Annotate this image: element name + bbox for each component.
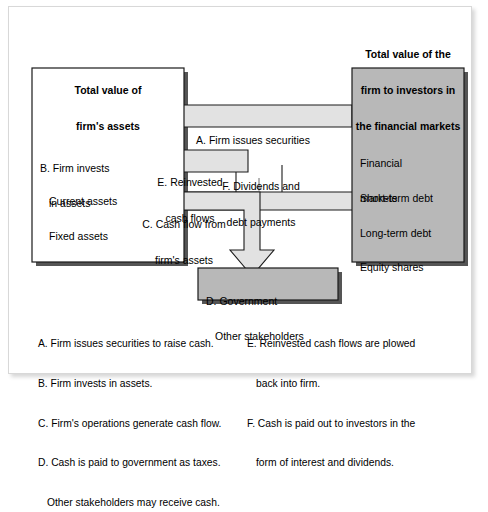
legend-right-line-0: E. Reinvested cash flows are plowed	[247, 337, 463, 350]
legend-right-column: E. Reinvested cash flows are plowed back…	[247, 311, 463, 496]
markets-line-4: Long-term debt	[360, 228, 470, 240]
markets-line-3: Short-term debt	[360, 193, 470, 205]
markets-line-5: Equity shares	[360, 262, 470, 274]
arrow-f-text-l2: debt payments	[200, 216, 322, 228]
markets-title-l1: Total value of the	[340, 48, 476, 60]
legend-right-line-1: back into firm.	[247, 377, 463, 390]
legend-left-column: A. Firm issues securities to raise cash.…	[38, 311, 248, 512]
arrow-f-text-l1: F. Dividends and	[200, 180, 322, 192]
arrow-c-text-l2: firm's assets	[118, 254, 250, 266]
government-line-1: D. Government	[206, 296, 336, 308]
markets-title-l2: firm to investors in	[340, 84, 476, 96]
legend-left-line-3: D. Cash is paid to government as taxes.	[38, 456, 248, 469]
legend-right-line-3: form of interest and dividends.	[247, 456, 463, 469]
legend-left-line-1: B. Firm invests in assets.	[38, 377, 248, 390]
markets-line-1: Financial	[360, 158, 470, 170]
markets-title-l3: the financial markets	[340, 120, 476, 132]
assets-title-l1: Total value of	[32, 84, 184, 96]
legend-right-line-2: F. Cash is paid out to investors in the	[247, 417, 463, 430]
legend-left-line-2: C. Firm's operations generate cash flow.	[38, 417, 248, 430]
legend-left-line-4: Other stakeholders may receive cash.	[38, 496, 248, 509]
arrow-a-text: A. Firm issues securities	[160, 134, 346, 146]
legend-left-line-0: A. Firm issues securities to raise cash.	[38, 337, 248, 350]
markets-box-instruments: Short-term debt Long-term debt Equity sh…	[360, 170, 470, 297]
arrow-f-label: F. Dividends and debt payments	[200, 156, 322, 252]
